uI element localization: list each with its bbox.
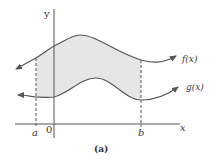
- curve-f-label: f(x): [181, 54, 198, 64]
- curve-g-right: [141, 87, 178, 100]
- diagram-svg: y x 0 a b f(x) g(x) (a): [0, 0, 218, 162]
- bound-b-label: b: [138, 127, 144, 138]
- x-axis-label: x: [180, 122, 186, 133]
- area-between-curves-figure: y x 0 a b f(x) g(x) (a): [0, 0, 218, 162]
- curve-g-label: g(x): [186, 82, 204, 92]
- shaded-region: [36, 35, 141, 100]
- figure-caption: (a): [94, 144, 108, 154]
- curve-f-right: [141, 56, 176, 62]
- origin-label: 0: [46, 124, 52, 135]
- y-axis-label: y: [43, 8, 50, 19]
- bound-a-label: a: [32, 127, 38, 138]
